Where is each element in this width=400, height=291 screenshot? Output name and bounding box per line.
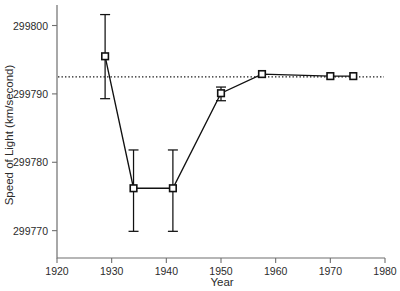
- data-point-marker: [170, 185, 177, 192]
- chart-canvas: 1920193019401950196019701980299770299780…: [0, 0, 400, 291]
- x-tick-label: 1940: [155, 265, 179, 277]
- x-tick-label: 1970: [319, 265, 343, 277]
- x-axis-title: Year: [210, 276, 233, 288]
- x-tick-label: 1920: [45, 265, 69, 277]
- x-tick-label: 1930: [100, 265, 124, 277]
- data-point-marker: [102, 53, 109, 60]
- y-tick-label: 299800: [13, 20, 48, 32]
- speed-of-light-chart: 1920193019401950196019701980299770299780…: [0, 0, 400, 291]
- y-tick-label: 299770: [13, 225, 48, 237]
- data-point-marker: [130, 185, 137, 192]
- data-point-marker: [327, 73, 334, 80]
- y-tick-label: 299790: [13, 88, 48, 100]
- x-tick-label: 1960: [264, 265, 288, 277]
- y-tick-label: 299780: [13, 156, 48, 168]
- data-point-marker: [350, 73, 357, 80]
- data-point-marker: [259, 71, 266, 78]
- data-point-marker: [218, 90, 225, 97]
- x-tick-label: 1980: [373, 265, 397, 277]
- y-axis-title: Speed of Light (km/second): [3, 65, 15, 206]
- plot-background: [0, 0, 400, 291]
